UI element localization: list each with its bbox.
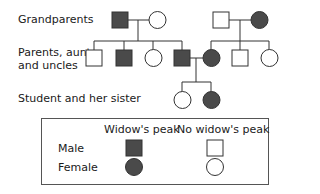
uncle-unaffected-square-maternal <box>232 50 248 66</box>
maternal-grandmother-affected-circle <box>251 12 268 29</box>
maternal-grandfather-unaffected-square <box>213 12 229 28</box>
uncle-unaffected-square <box>86 50 102 66</box>
legend-row-female: Female <box>58 161 98 174</box>
mother-affected-circle <box>203 50 220 67</box>
paternal-grandfather-affected-square <box>112 12 128 28</box>
father-affected-square <box>174 50 190 66</box>
legend-header-no-widows-peak: No widow's peak <box>177 123 269 136</box>
uncle-affected-square <box>116 50 132 66</box>
legend-row-male: Male <box>58 142 84 155</box>
student-unaffected-circle <box>174 92 191 109</box>
aunt-unaffected-circle <box>145 50 162 67</box>
paternal-grandmother-unaffected-circle <box>149 12 166 29</box>
aunt-unaffected-circle-maternal <box>261 50 278 67</box>
sister-affected-circle <box>203 92 220 109</box>
legend-header-widows-peak: Widow's peak <box>104 123 180 136</box>
